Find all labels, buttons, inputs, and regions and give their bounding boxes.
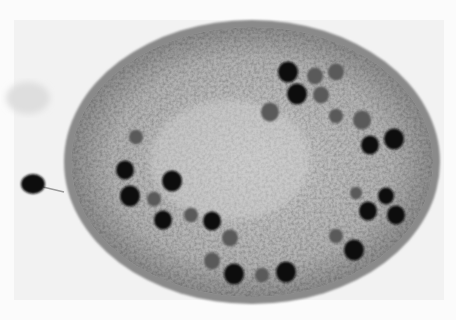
- granule-mid: [353, 111, 371, 130]
- granule-dark: [224, 264, 244, 285]
- external-granule: [21, 174, 45, 194]
- granule-dark: [278, 62, 298, 83]
- granule-dark: [162, 171, 182, 192]
- granule-mid: [329, 229, 343, 244]
- granule-dark: [120, 186, 140, 207]
- granule-mid: [222, 230, 238, 247]
- granule-mid: [129, 130, 143, 145]
- granule-mid: [350, 187, 362, 200]
- granule-mid: [255, 268, 269, 283]
- granule-dark: [154, 211, 172, 230]
- granule-dark: [344, 240, 364, 261]
- granule-dark: [384, 129, 404, 150]
- cell-light-region: [150, 100, 310, 220]
- granule-mid: [184, 208, 198, 223]
- granule-dark: [359, 202, 377, 221]
- micrograph: [0, 0, 456, 320]
- granule-dark: [116, 161, 134, 180]
- granule-mid: [313, 87, 329, 104]
- granule-dark: [387, 206, 405, 225]
- granule-dark: [361, 136, 379, 155]
- granule-dark: [276, 262, 296, 283]
- granule-mid: [328, 64, 344, 81]
- granule-mid: [147, 192, 161, 207]
- granule-dark: [287, 84, 307, 105]
- granule-mid: [204, 253, 220, 270]
- granule-dark: [203, 212, 221, 231]
- granule-mid: [307, 68, 323, 85]
- granule-mid: [329, 109, 343, 124]
- faint-blob: [6, 82, 50, 114]
- granule-dark: [378, 188, 394, 205]
- granule-mid: [261, 103, 279, 122]
